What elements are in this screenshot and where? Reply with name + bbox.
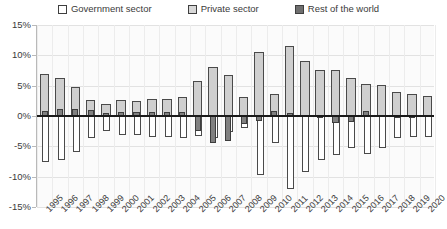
chart-legend: Government sector Private sector Rest of…: [0, 0, 437, 18]
bar-private-sector: [377, 85, 386, 116]
bar-private-sector: [224, 75, 233, 116]
y-axis-tick-label: 10%: [12, 51, 31, 61]
y-axis: 15%10%5%0%-5%-10%-15%: [0, 25, 34, 207]
bar-private-sector: [300, 61, 309, 116]
bar-government-sector: [425, 116, 432, 137]
bar-government-sector: [364, 116, 371, 154]
bar-government-sector: [58, 116, 65, 160]
bar-government-sector: [394, 116, 401, 138]
bar-private-sector: [208, 67, 217, 116]
bar-government-sector: [119, 116, 126, 135]
bar-government-sector: [410, 116, 417, 137]
y-axis-tick-label: -10%: [9, 172, 31, 182]
bar-government-sector: [287, 116, 294, 189]
bar-rest-of-the-world: [225, 116, 231, 141]
bar-government-sector: [257, 116, 264, 175]
bar-government-sector: [180, 116, 187, 138]
plot-area: [36, 25, 434, 207]
legend-swatch-icon-government: [58, 5, 67, 14]
bar-rest-of-the-world: [332, 116, 338, 123]
bar-private-sector: [407, 94, 416, 116]
bar-government-sector: [272, 116, 279, 143]
y-axis-tick-label: 0%: [17, 111, 31, 121]
bar-rest-of-the-world: [195, 116, 201, 131]
bar-government-sector: [318, 116, 325, 160]
bar-government-sector: [302, 116, 309, 172]
bar-government-sector: [149, 116, 156, 137]
bar-government-sector: [88, 116, 95, 138]
bar-private-sector: [423, 96, 432, 116]
bar-private-sector: [392, 92, 401, 116]
bar-private-sector: [239, 97, 248, 116]
bar-private-sector: [315, 70, 324, 116]
legend-swatch-icon-private: [188, 5, 197, 14]
bar-government-sector: [134, 116, 141, 135]
y-axis-tick-label: 15%: [12, 20, 31, 30]
y-axis-tick-label: 5%: [17, 81, 31, 91]
bar-private-sector: [285, 46, 294, 116]
bar-government-sector: [103, 116, 110, 131]
bar-rest-of-the-world: [241, 116, 247, 124]
bar-government-sector: [42, 116, 49, 162]
bar-rest-of-the-world: [210, 116, 216, 143]
bar-private-sector: [254, 52, 263, 116]
bar-private-sector: [346, 78, 355, 116]
legend-label-rest-of-world: Rest of the world: [308, 4, 379, 14]
legend-item-government-sector: Government sector: [58, 4, 152, 14]
legend-label-government: Government sector: [71, 4, 152, 14]
y-axis-tick-label: -15%: [9, 202, 31, 212]
bar-private-sector: [193, 81, 202, 116]
bar-private-sector: [331, 70, 340, 116]
legend-swatch-icon-rest-of-world: [295, 5, 304, 14]
bar-government-sector: [73, 116, 80, 152]
legend-item-private-sector: Private sector: [188, 4, 259, 14]
x-gridline: [435, 25, 436, 207]
x-axis: 1995199619971998199920002001200220032004…: [36, 207, 434, 229]
bar-government-sector: [165, 116, 172, 137]
y-axis-tick-label: -5%: [14, 142, 31, 152]
bar-government-sector: [379, 116, 386, 148]
zero-baseline: [37, 115, 434, 117]
legend-label-private: Private sector: [201, 4, 259, 14]
legend-item-rest-of-the-world: Rest of the world: [295, 4, 379, 14]
